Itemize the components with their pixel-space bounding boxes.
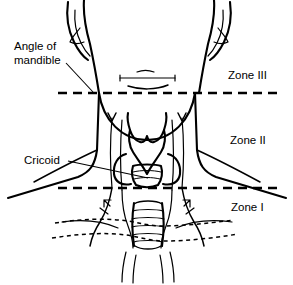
neck-zones-figure: Angle of mandible Cricoid Zone III Zone … (0, 0, 293, 285)
angle-of-mandible-label-line2: mandible (14, 54, 61, 66)
cricoid-label: Cricoid (24, 154, 60, 166)
zone-1-label: Zone I (231, 201, 264, 213)
neck-zones-diagram: Angle of mandible Cricoid Zone III Zone … (0, 0, 293, 285)
zone-3-label: Zone III (228, 69, 267, 81)
zone-2-label: Zone II (230, 134, 266, 146)
angle-of-mandible-label-line1: Angle of (14, 40, 57, 52)
